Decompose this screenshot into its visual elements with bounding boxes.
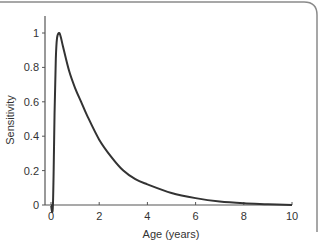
x-tick-label: 4 — [144, 210, 150, 222]
sensitivity-curve — [51, 33, 292, 212]
x-axis-title: Age (years) — [143, 228, 200, 240]
y-tick-label: 0 — [33, 199, 39, 211]
sensitivity-chart: 00.20.40.60.810246810 Age (years) Sensit… — [0, 0, 324, 245]
y-tick-label: 1 — [33, 27, 39, 39]
x-tick-label: 10 — [286, 210, 298, 222]
y-tick-label: 0.4 — [24, 130, 39, 142]
y-tick-label: 0.2 — [24, 165, 39, 177]
y-tick-label: 0.6 — [24, 96, 39, 108]
x-tick-label: 6 — [193, 210, 199, 222]
y-tick-label: 0.8 — [24, 61, 39, 73]
x-tick-label: 2 — [96, 210, 102, 222]
axes: 00.20.40.60.810246810 — [24, 16, 298, 222]
x-tick-label: 8 — [241, 210, 247, 222]
y-axis-title: Sensitivity — [4, 95, 16, 145]
frame-border — [0, 2, 317, 232]
data-series — [51, 33, 292, 212]
